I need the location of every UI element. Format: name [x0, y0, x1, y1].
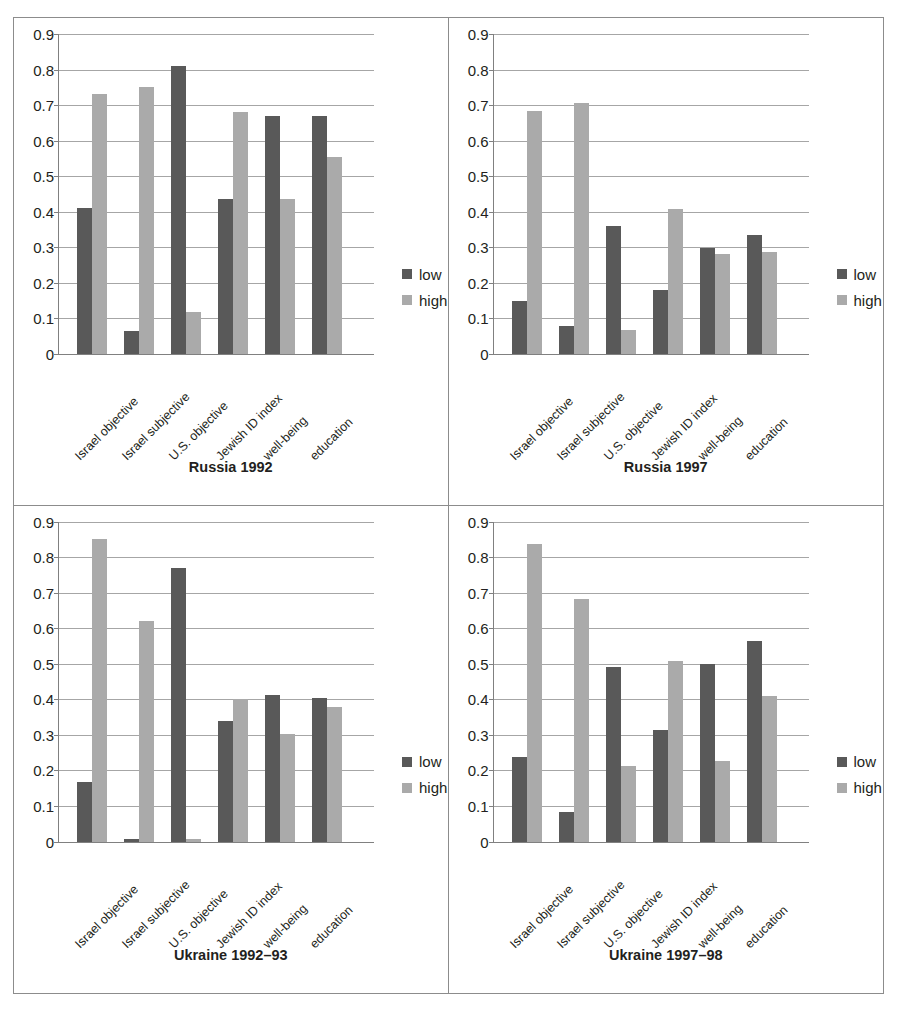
bar-high — [280, 734, 295, 841]
y-axis-tick — [489, 70, 493, 71]
y-axis-tick — [489, 34, 493, 35]
legend-label-low: low — [419, 754, 442, 769]
bar-group — [700, 34, 747, 354]
bar-low — [312, 698, 327, 842]
bar-high — [574, 599, 589, 841]
bar-group — [218, 522, 265, 842]
bar-group — [606, 522, 653, 842]
y-axis-tick-label: 0 — [46, 834, 54, 849]
bar-low — [218, 721, 233, 842]
bar-high — [233, 699, 248, 841]
bar-high — [327, 707, 342, 841]
y-axis-labels: 0.90.80.70.60.50.40.30.20.10 — [453, 34, 489, 354]
y-axis-tick-label: 0.5 — [468, 169, 489, 184]
bar-low — [512, 757, 527, 842]
bar-high — [621, 766, 636, 842]
y-axis-tick-label: 0.5 — [468, 656, 489, 671]
bar-low — [171, 66, 186, 354]
y-axis-tick — [54, 557, 58, 558]
bar-high — [92, 539, 107, 841]
legend-swatch-high-icon — [837, 295, 847, 305]
panel-title: Russia 1992 — [14, 459, 448, 475]
y-axis-tick — [489, 141, 493, 142]
y-axis-tick-label: 0 — [480, 834, 488, 849]
y-axis-tick — [54, 770, 58, 771]
chart-ukraine-1992-93: 0.90.80.70.60.50.40.30.20.10 Israel obje… — [14, 506, 448, 994]
y-axis-tick — [489, 593, 493, 594]
chart-panel-ukraine-1992-93: 0.90.80.70.60.50.40.30.20.10 Israel obje… — [14, 506, 449, 994]
legend-swatch-low-icon — [402, 757, 412, 767]
bar-low — [606, 667, 621, 841]
y-axis-tick-label: 0.1 — [468, 798, 489, 813]
category-label: well-being — [696, 414, 745, 463]
legend-swatch-high-icon — [402, 295, 412, 305]
bar-low — [312, 116, 327, 354]
bar-group — [700, 522, 747, 842]
bar-high — [574, 103, 589, 354]
bar-group — [606, 34, 653, 354]
y-axis-tick-label: 0.6 — [33, 133, 54, 148]
category-label: education — [743, 903, 790, 950]
gridline — [493, 842, 809, 843]
plot-area: 0.90.80.70.60.50.40.30.20.10 — [58, 34, 374, 354]
bar-high — [621, 330, 636, 354]
y-axis-tick — [54, 283, 58, 284]
bar-low — [559, 326, 574, 354]
legend-swatch-low-icon — [837, 269, 847, 279]
legend-item-low: low — [402, 261, 449, 287]
y-axis-tick — [489, 842, 493, 843]
bar-group — [265, 522, 312, 842]
bar-low — [747, 235, 762, 354]
bar-group — [512, 34, 559, 354]
legend-label-low: low — [419, 267, 442, 282]
y-axis-tick — [54, 735, 58, 736]
y-axis-tick — [489, 806, 493, 807]
legend-swatch-low-icon — [402, 269, 412, 279]
y-axis-tick-label: 0.7 — [468, 585, 489, 600]
bar-group — [747, 34, 794, 354]
y-axis-tick — [54, 628, 58, 629]
gridline — [493, 354, 809, 355]
y-axis-tick-label: 0.1 — [33, 311, 54, 326]
bar-high — [139, 87, 154, 354]
bar-low — [512, 301, 527, 354]
category-label: education — [308, 903, 355, 950]
bar-low — [559, 812, 574, 841]
bar-group — [312, 34, 359, 354]
bar-series-container — [494, 34, 809, 354]
y-axis-tick-label: 0.3 — [468, 240, 489, 255]
bar-group — [512, 522, 559, 842]
y-axis-tick-label: 0.4 — [33, 692, 54, 707]
y-axis-tick — [489, 628, 493, 629]
bar-low — [77, 208, 92, 354]
y-axis-tick-label: 0 — [480, 347, 488, 362]
y-axis-tick-label: 0.8 — [468, 62, 489, 77]
bar-low — [700, 664, 715, 842]
bar-high — [715, 761, 730, 842]
gridline — [58, 842, 374, 843]
y-axis-tick-label: 0.7 — [33, 585, 54, 600]
bar-low — [700, 248, 715, 354]
legend-swatch-high-icon — [402, 783, 412, 793]
y-axis-tick-label: 0.9 — [468, 27, 489, 42]
bar-high — [762, 252, 777, 354]
y-axis-tick-label: 0.7 — [468, 98, 489, 113]
bar-group — [265, 34, 312, 354]
y-axis-tick-label: 0.5 — [33, 169, 54, 184]
category-label: well-being — [696, 902, 745, 951]
legend-label-high: high — [419, 293, 447, 308]
y-axis-tick-label: 0.9 — [468, 514, 489, 529]
legend-item-low: low — [837, 749, 884, 775]
legend-label-high: high — [854, 293, 882, 308]
bar-group — [124, 34, 171, 354]
bar-high — [715, 254, 730, 354]
y-axis-tick-label: 0.3 — [33, 240, 54, 255]
panel-title: Ukraine 1997–98 — [449, 947, 884, 963]
y-axis-tick — [54, 522, 58, 523]
bar-group — [77, 522, 124, 842]
y-axis-tick-label: 0.3 — [33, 727, 54, 742]
gridline — [58, 354, 374, 355]
y-axis-tick-label: 0.8 — [33, 62, 54, 77]
y-axis-tick — [489, 664, 493, 665]
bar-low — [171, 568, 186, 842]
